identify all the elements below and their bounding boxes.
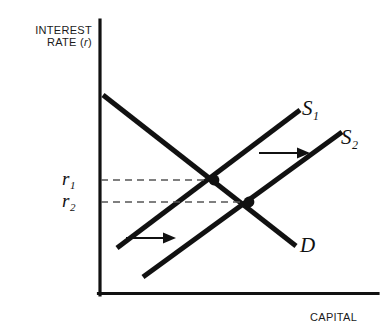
y-axis-title-close: ) [88, 36, 92, 48]
y-axis-title-line1: INTEREST [35, 24, 92, 36]
rate-label-r1: r1 [62, 168, 75, 189]
rate-label-r2-base: r [62, 190, 69, 211]
equilibrium-point-2 [244, 197, 255, 208]
equilibrium-point-1 [209, 175, 220, 186]
curve-label-s2-base: S [341, 125, 352, 149]
diagram-canvas [0, 0, 391, 335]
demand-curve [103, 95, 296, 246]
shift-arrow-upper [259, 148, 310, 159]
y-axis-title-line2: RATE ( [47, 36, 84, 48]
curve-label-s2-subscript: 2 [352, 138, 358, 152]
curve-label-d: D [300, 234, 315, 258]
curve-label-s2: S2 [341, 126, 358, 150]
x-axis-title: CAPITAL [310, 311, 357, 323]
rate-label-r1-base: r [62, 168, 69, 189]
rate-label-r2-subscript: 2 [70, 201, 76, 213]
curve-label-s1-base: S [302, 96, 313, 120]
curve-label-s1: S1 [302, 97, 319, 121]
curve-label-s1-subscript: 1 [313, 109, 319, 123]
economics-supply-demand-figure: INTERESTRATE (r) CAPITAL r1 r2 S1 S2 D [0, 0, 391, 335]
y-axis-title: INTERESTRATE (r) [12, 24, 92, 49]
rate-label-r2: r2 [62, 190, 75, 211]
